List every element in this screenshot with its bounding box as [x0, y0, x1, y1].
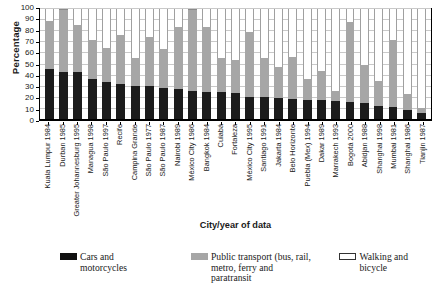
x-tick-slot: México City 1995	[243, 122, 257, 218]
stacked-bar[interactable]	[131, 9, 140, 120]
y-tick-label: 0	[30, 117, 34, 125]
stacked-bar[interactable]	[245, 9, 254, 120]
x-tick-slot: Jakarta 1984	[272, 122, 286, 218]
bar-slot	[228, 9, 242, 120]
x-tick-label: Bogotá 2000	[347, 124, 354, 166]
stacked-bar[interactable]	[274, 9, 283, 120]
bar-slot	[257, 9, 271, 120]
stacked-bar[interactable]	[145, 9, 154, 120]
bar-segment-cars-motorcycles	[346, 102, 355, 120]
bar-slot	[128, 9, 142, 120]
x-tick-slot: Shanghai 1986	[401, 122, 415, 218]
x-tick-slot: Puebla (Mex) 1994	[300, 122, 314, 218]
bar-segment-cars-motorcycles	[231, 93, 240, 120]
stacked-bar[interactable]	[360, 9, 369, 120]
bar-segment-cars-motorcycles	[131, 86, 140, 120]
stacked-bar[interactable]	[303, 9, 312, 120]
bar-segment-public-transport	[188, 9, 197, 91]
bar-slot	[185, 9, 199, 120]
legend-label-public-transport: Public transport (bus, rail, metro, ferr…	[211, 252, 313, 284]
stacked-bar[interactable]	[159, 9, 168, 120]
stacked-bar[interactable]	[202, 9, 211, 120]
bar-segment-walking-bicycle	[260, 9, 269, 58]
y-tick-mark	[36, 121, 39, 122]
bar-segment-public-transport	[303, 79, 312, 100]
bar-segment-cars-motorcycles	[188, 91, 197, 120]
bar-segment-walking-bicycle	[159, 9, 168, 49]
stacked-bar[interactable]	[417, 9, 426, 120]
bar-segment-public-transport	[360, 65, 369, 104]
bar-segment-cars-motorcycles	[331, 101, 340, 120]
bar-segment-cars-motorcycles	[260, 97, 269, 120]
x-tick-slot: Shanghai 1998	[372, 122, 386, 218]
legend-label-public-transport-line2: metro, ferry and paratransit	[211, 262, 273, 284]
stacked-bar[interactable]	[217, 9, 226, 120]
x-tick-label: Fortaleza	[232, 124, 239, 155]
x-tick-slot: Managua 1998	[84, 122, 98, 218]
stacked-bar[interactable]	[346, 9, 355, 120]
x-tick-label: Dakar 1989	[318, 124, 325, 162]
stacked-bar[interactable]	[73, 9, 82, 120]
stacked-bar[interactable]	[389, 9, 398, 120]
bar-segment-walking-bicycle	[360, 9, 369, 65]
stacked-bar[interactable]	[116, 9, 125, 120]
legend-item-public-transport: Public transport (bus, rail, metro, ferr…	[191, 252, 313, 284]
bar-slot	[300, 9, 314, 120]
bar-segment-walking-bicycle	[217, 9, 226, 58]
bar-slot	[372, 9, 386, 120]
x-tick-label: México City 1986	[189, 124, 196, 181]
x-tick-slot: Fortaleza	[228, 122, 242, 218]
bar-segment-cars-motorcycles	[88, 79, 97, 120]
x-tick-label: São Paulo 1997	[102, 124, 109, 177]
bar-segment-walking-bicycle	[245, 9, 254, 32]
bar-segment-public-transport	[145, 37, 154, 86]
x-tick-slot: Belo Horizonte	[286, 122, 300, 218]
stacked-bar[interactable]	[88, 9, 97, 120]
chart-figure: Percentage 0102030405060708090100 Kuala …	[0, 0, 439, 291]
legend-label-walking-bicycle: Walking and bicycle	[359, 252, 436, 273]
x-tick-slot: México City 1986	[185, 122, 199, 218]
stacked-bar[interactable]	[317, 9, 326, 120]
bar-segment-public-transport	[159, 49, 168, 88]
stacked-bar[interactable]	[288, 9, 297, 120]
y-tick-label: 80	[25, 27, 34, 35]
bar-segment-public-transport	[131, 58, 140, 86]
stacked-bar[interactable]	[331, 9, 340, 120]
stacked-bar[interactable]	[102, 9, 111, 120]
x-tick-label: México City 1995	[246, 124, 253, 181]
x-tick-label: Mumbai 1981	[390, 124, 397, 169]
stacked-bar[interactable]	[59, 9, 68, 120]
stacked-bar[interactable]	[403, 9, 412, 120]
bar-segment-cars-motorcycles	[217, 92, 226, 120]
bar-segment-cars-motorcycles	[202, 92, 211, 120]
x-tick-label: Marrakech 1993	[333, 124, 340, 177]
bar-slot	[343, 9, 357, 120]
stacked-bar[interactable]	[45, 9, 54, 120]
bar-slot	[314, 9, 328, 120]
bar-slot	[286, 9, 300, 120]
y-tick-label: 100	[21, 4, 34, 12]
bar-segment-cars-motorcycles	[45, 69, 54, 120]
bar-segment-public-transport	[116, 35, 125, 85]
bar-segment-walking-bicycle	[288, 9, 297, 57]
bar-segment-public-transport	[174, 27, 183, 89]
bar-segment-walking-bicycle	[102, 9, 111, 48]
y-tick-label: 30	[25, 83, 34, 91]
bar-segment-public-transport	[231, 60, 240, 93]
y-tick-mark	[36, 42, 39, 43]
bar-segment-public-transport	[403, 94, 412, 110]
legend-item-cars: Cars and motorcycles	[60, 252, 161, 273]
stacked-bar[interactable]	[260, 9, 269, 120]
bar-segment-cars-motorcycles	[159, 88, 168, 120]
y-tick-mark	[36, 65, 39, 66]
stacked-bar[interactable]	[374, 9, 383, 120]
stacked-bar[interactable]	[188, 9, 197, 120]
bar-slot	[200, 9, 214, 120]
stacked-bar[interactable]	[174, 9, 183, 120]
bar-segment-walking-bicycle	[374, 9, 383, 81]
x-axis-baseline	[40, 119, 431, 120]
bar-segment-cars-motorcycles	[73, 72, 82, 120]
bar-segment-walking-bicycle	[331, 9, 340, 91]
stacked-bar[interactable]	[231, 9, 240, 120]
bar-segment-public-transport	[73, 25, 82, 73]
